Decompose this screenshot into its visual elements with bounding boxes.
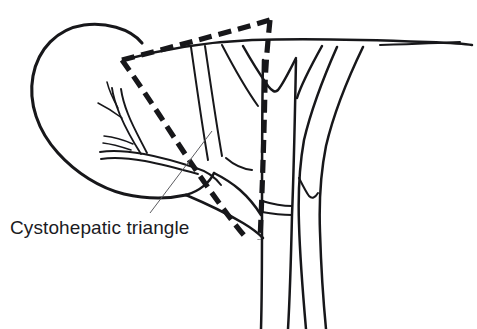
- cystic-duct-group: [186, 173, 263, 238]
- anatomical-figure: Cystohepatic triangle: [0, 0, 477, 329]
- cystohepatic-triangle-illustration: Cystohepatic triangle: [0, 0, 477, 329]
- cystic-duct-upper-wall: [214, 173, 261, 215]
- cystic-artery-trunk: [100, 151, 196, 168]
- hepatic-artery-branch: [299, 178, 318, 198]
- cystic-artery-twig-d: [103, 143, 131, 150]
- cystohepatic-triangle-label: Cystohepatic triangle: [10, 217, 190, 238]
- cystic-artery-twig-c: [104, 136, 133, 144]
- liver-inferior-margin: [123, 39, 472, 60]
- hepatic-artery-group: [299, 47, 363, 329]
- left-hepatic-duct-inner-wall: [222, 45, 258, 106]
- triangle-edge-left: [122, 60, 248, 240]
- common-hepatic-duct-right-wall: [288, 60, 296, 329]
- cystic-artery-trunk-lower: [101, 158, 198, 174]
- portal-confluence-fold: [262, 201, 292, 206]
- accessory-duct-line-c: [226, 158, 252, 170]
- hepatic-artery-right-wall: [320, 47, 363, 329]
- liver-group: [123, 39, 472, 60]
- accessory-duct-line-b: [205, 46, 222, 156]
- accessory-duct-line-a: [191, 47, 208, 160]
- portal-confluence-fold-2: [262, 212, 292, 215]
- triangle-edge-right: [260, 20, 270, 240]
- cystic-artery-branch-superior: [112, 88, 141, 154]
